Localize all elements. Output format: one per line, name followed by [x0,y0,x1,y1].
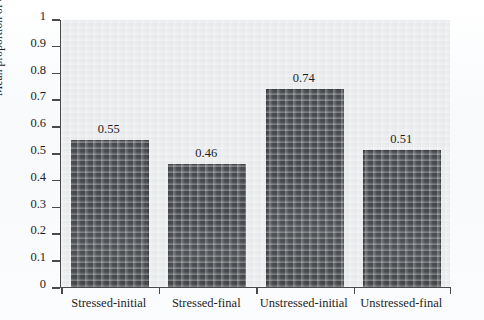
y-axis-tick-label: 0.4 [30,171,46,184]
plot-area [60,20,450,288]
y-axis-tick-mark [52,19,60,21]
y-axis-tick-label: 0.1 [30,251,46,264]
x-axis-category-label: Unstressed-final [341,296,461,311]
y-axis-tick-mark [52,180,60,182]
y-axis-tick-mark [52,207,60,209]
y-axis-tick-mark [52,126,60,128]
x-axis-tick-mark [354,287,356,294]
y-axis-tick-label: 0 [40,278,46,291]
x-axis-tick-mark [256,287,258,294]
y-axis-tick-label: 0.2 [30,224,46,237]
bar-value-label: 0.51 [371,132,431,147]
y-axis-tick-mark [52,260,60,262]
bar [266,89,344,287]
y-axis-tick-mark [52,46,60,48]
bar-chart-figure: Mean proportion of errors 10.90.80.70.60… [0,0,484,320]
y-axis-tick-label: 0.7 [30,90,46,103]
bar [71,140,149,287]
y-axis-tick-mark [52,99,60,101]
y-axis-tick-mark [52,153,60,155]
bar [363,150,441,287]
y-axis-tick-label: 0.5 [30,144,46,157]
x-axis-tick-mark [61,287,63,294]
y-axis-title: Mean proportion of errors [0,0,4,96]
y-axis-tick-label: 0.9 [30,37,46,50]
bar [168,164,246,287]
y-axis-tick-label: 0.8 [30,64,46,77]
y-axis-tick-label: 0.3 [30,198,46,211]
x-axis-tick-mark [159,287,161,294]
bar-value-label: 0.55 [79,122,139,137]
y-axis-tick-mark [52,233,60,235]
y-axis-tick-label: 1 [40,10,46,23]
y-axis-tick-mark [52,287,60,289]
y-axis-tick-mark [52,73,60,75]
bar-value-label: 0.74 [274,71,334,86]
y-axis-tick-label: 0.6 [30,117,46,130]
bar-value-label: 0.46 [176,146,236,161]
x-axis-tick-mark [450,287,452,294]
